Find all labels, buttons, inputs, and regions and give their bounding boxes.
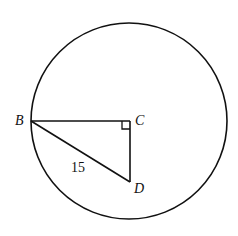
label-length-bd: 15 bbox=[71, 161, 85, 175]
diagram-svg bbox=[0, 0, 238, 236]
geometry-diagram: B C D 15 bbox=[0, 0, 238, 236]
right-angle-marker bbox=[122, 121, 130, 129]
label-b: B bbox=[15, 114, 24, 128]
label-d: D bbox=[134, 182, 144, 196]
label-c: C bbox=[135, 114, 144, 128]
